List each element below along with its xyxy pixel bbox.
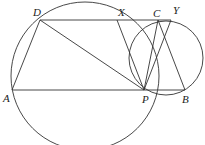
segment-XP bbox=[117, 20, 144, 90]
geometry-diagram: D X C Y A P B bbox=[0, 0, 205, 145]
label-P: P bbox=[141, 93, 149, 105]
label-C: C bbox=[153, 7, 161, 19]
left-circle bbox=[11, 2, 159, 145]
segment-DP bbox=[40, 20, 144, 90]
label-Y: Y bbox=[173, 4, 181, 16]
label-B: B bbox=[182, 93, 189, 105]
label-D: D bbox=[32, 6, 41, 18]
label-X: X bbox=[117, 6, 126, 18]
segment-AD bbox=[12, 20, 40, 90]
segment-YP bbox=[144, 20, 171, 90]
segment-CB bbox=[158, 20, 185, 90]
label-A: A bbox=[2, 92, 10, 104]
